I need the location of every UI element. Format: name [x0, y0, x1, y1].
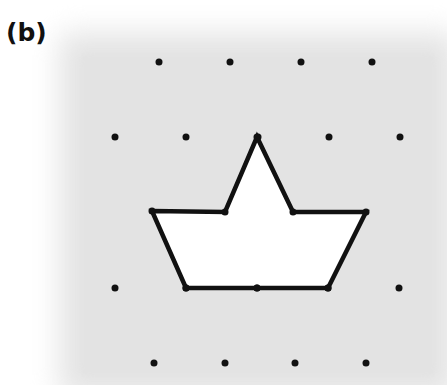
grid-dot	[156, 59, 163, 66]
grid-dot	[222, 360, 229, 367]
grid-dot	[183, 134, 190, 141]
grid-dot	[292, 360, 299, 367]
grid-dot	[396, 285, 403, 292]
grid-dot	[149, 208, 156, 215]
grid-dot	[369, 59, 376, 66]
grid-dot	[363, 209, 370, 216]
grid-dot	[254, 134, 261, 141]
grid-dot	[151, 360, 158, 367]
grid-dot	[227, 59, 234, 66]
grid-dot	[363, 360, 370, 367]
grid-dot	[325, 285, 332, 292]
grid-dot	[397, 134, 404, 141]
grid-dot	[298, 59, 305, 66]
grid-dot	[222, 209, 229, 216]
grid-dot	[112, 134, 119, 141]
dot-grid-figure	[0, 0, 447, 385]
grid-dot	[290, 209, 297, 216]
grid-dot	[183, 285, 190, 292]
grid-dot	[112, 285, 119, 292]
grid-dot	[254, 285, 261, 292]
boat-polygon	[152, 137, 366, 288]
grid-dot	[326, 134, 333, 141]
